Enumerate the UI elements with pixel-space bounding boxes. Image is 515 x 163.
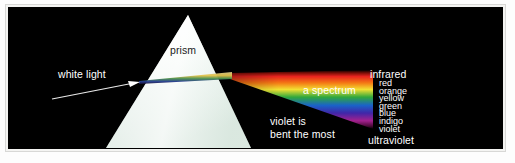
label-violet-bent-the-most: violet is bent the most <box>270 115 335 141</box>
color-name-green: green <box>379 103 499 111</box>
violet-bent-line-2: bent the most <box>270 128 335 141</box>
color-name-violet: violet <box>379 126 499 134</box>
prism-dispersion-figure: white light prism a spectrum violet is b… <box>0 0 515 163</box>
violet-bent-line-1: violet is <box>270 115 335 128</box>
label-spectrum: a spectrum <box>303 85 356 96</box>
label-ultraviolet: ultraviolet <box>368 135 414 146</box>
label-prism: prism <box>170 45 196 56</box>
figure-stage: white light prism a spectrum violet is b… <box>8 7 503 149</box>
label-white-light: white light <box>58 69 106 80</box>
spectrum-color-name-list: red orange yellow green blue indigo viol… <box>379 80 499 133</box>
